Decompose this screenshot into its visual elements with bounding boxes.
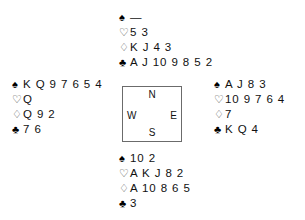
north-diamonds-cards: K J 4 3 bbox=[130, 40, 172, 55]
bridge-deal-diagram: ♠ — ♡ 5 3 ♢ K J 4 3 ♣ A J 10 9 8 5 2 ♠ K… bbox=[0, 0, 305, 220]
east-hearts-line: ♡ 10 9 7 6 4 bbox=[214, 92, 285, 107]
hand-north: ♠ — ♡ 5 3 ♢ K J 4 3 ♣ A J 10 9 8 5 2 bbox=[119, 10, 213, 70]
south-clubs-cards: 3 bbox=[130, 196, 137, 211]
east-clubs-line: ♣ K Q 4 bbox=[214, 122, 285, 137]
compass-label-east: E bbox=[170, 110, 177, 121]
east-spades-line: ♠ A J 8 3 bbox=[214, 77, 285, 92]
south-spades-line: ♠ 10 2 bbox=[119, 151, 191, 166]
club-suit-icon: ♣ bbox=[119, 196, 130, 211]
south-diamonds-cards: A 10 8 6 5 bbox=[130, 181, 191, 196]
south-clubs-line: ♣ 3 bbox=[119, 196, 191, 211]
hand-east: ♠ A J 8 3 ♡ 10 9 7 6 4 ♢ 7 ♣ K Q 4 bbox=[214, 77, 285, 137]
west-clubs-cards: 7 6 bbox=[23, 122, 42, 137]
south-diamonds-line: ♢ A 10 8 6 5 bbox=[119, 181, 191, 196]
north-spades-cards: — bbox=[130, 10, 142, 25]
diamond-suit-icon: ♢ bbox=[214, 107, 225, 122]
south-hearts-line: ♡ A K J 8 2 bbox=[119, 166, 191, 181]
heart-suit-icon: ♡ bbox=[12, 92, 23, 107]
west-hearts-cards: Q bbox=[23, 92, 33, 107]
east-diamonds-line: ♢ 7 bbox=[214, 107, 285, 122]
heart-suit-icon: ♡ bbox=[214, 92, 225, 107]
west-diamonds-line: ♢ Q 9 2 bbox=[12, 107, 102, 122]
east-hearts-cards: 10 9 7 6 4 bbox=[225, 92, 285, 107]
east-clubs-cards: K Q 4 bbox=[225, 122, 259, 137]
east-spades-cards: A J 8 3 bbox=[225, 77, 266, 92]
hand-south: ♠ 10 2 ♡ A K J 8 2 ♢ A 10 8 6 5 ♣ 3 bbox=[119, 151, 191, 211]
heart-suit-icon: ♡ bbox=[119, 25, 130, 40]
club-suit-icon: ♣ bbox=[214, 122, 225, 137]
compass-label-west: W bbox=[127, 110, 136, 121]
west-spades-line: ♠ K Q 9 7 6 5 4 bbox=[12, 77, 102, 92]
heart-suit-icon: ♡ bbox=[119, 166, 130, 181]
north-clubs-cards: A J 10 9 8 5 2 bbox=[130, 55, 213, 70]
west-clubs-line: ♣ 7 6 bbox=[12, 122, 102, 137]
east-diamonds-cards: 7 bbox=[225, 107, 232, 122]
spade-suit-icon: ♠ bbox=[119, 10, 130, 25]
diamond-suit-icon: ♢ bbox=[119, 40, 130, 55]
hand-west: ♠ K Q 9 7 6 5 4 ♡ Q ♢ Q 9 2 ♣ 7 6 bbox=[12, 77, 102, 137]
spade-suit-icon: ♠ bbox=[119, 151, 130, 166]
north-clubs-line: ♣ A J 10 9 8 5 2 bbox=[119, 55, 213, 70]
north-spades-line: ♠ — bbox=[119, 10, 213, 25]
south-hearts-cards: A K J 8 2 bbox=[130, 166, 184, 181]
club-suit-icon: ♣ bbox=[119, 55, 130, 70]
west-hearts-line: ♡ Q bbox=[12, 92, 102, 107]
compass-label-north: N bbox=[123, 89, 181, 100]
north-hearts-line: ♡ 5 3 bbox=[119, 25, 213, 40]
west-diamonds-cards: Q 9 2 bbox=[23, 107, 56, 122]
club-suit-icon: ♣ bbox=[12, 122, 23, 137]
compass-box: N W E S bbox=[122, 86, 182, 142]
spade-suit-icon: ♠ bbox=[12, 77, 23, 92]
diamond-suit-icon: ♢ bbox=[119, 181, 130, 196]
spade-suit-icon: ♠ bbox=[214, 77, 225, 92]
compass-label-south: S bbox=[123, 127, 181, 138]
west-spades-cards: K Q 9 7 6 5 4 bbox=[23, 77, 102, 92]
north-diamonds-line: ♢ K J 4 3 bbox=[119, 40, 213, 55]
north-hearts-cards: 5 3 bbox=[130, 25, 149, 40]
diamond-suit-icon: ♢ bbox=[12, 107, 23, 122]
south-spades-cards: 10 2 bbox=[130, 151, 156, 166]
